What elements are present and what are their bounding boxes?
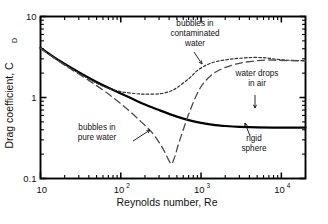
- x-tick-label: 10: [274, 184, 285, 195]
- drag-coefficient-chart: 101021031041010.1 bubbles incontaminated…: [0, 0, 328, 224]
- x-axis-title: Reynolds number, Re: [117, 196, 218, 208]
- x-tick-exponent: 3: [207, 182, 211, 189]
- y-axis-title: Drag coefficient, C: [3, 62, 15, 149]
- x-tick-exponent: 4: [287, 182, 291, 189]
- y-tick-label: 0.1: [23, 173, 36, 184]
- chart-figure: 101021031041010.1 bubbles incontaminated…: [0, 0, 328, 224]
- x-tick-label: 10: [114, 184, 125, 195]
- x-tick-label: 10: [194, 184, 205, 195]
- y-tick-label: 1: [31, 92, 36, 103]
- y-axis-title-subscript: D: [11, 38, 18, 43]
- x-tick-exponent: 2: [126, 182, 130, 189]
- annotation-pure-water: bubbles inpure water: [78, 123, 117, 142]
- y-tick-label: 10: [26, 11, 37, 22]
- x-tick-label: 10: [37, 184, 48, 195]
